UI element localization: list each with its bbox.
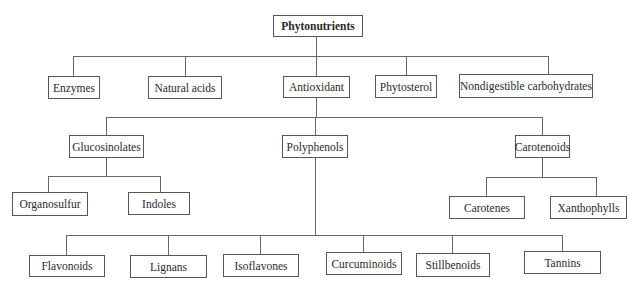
- connector: [315, 158, 316, 235]
- node-polyphenols: Polyphenols: [282, 135, 348, 158]
- connector: [73, 56, 74, 76]
- node-tannins: Tannins: [524, 251, 601, 274]
- connector: [106, 158, 107, 176]
- node-natural-acids: Natural acids: [148, 76, 222, 99]
- node-label: Xanthophylls: [558, 202, 620, 214]
- node-label: Organosulfur: [19, 198, 80, 210]
- node-curcuminoids: Curcuminoids: [326, 252, 402, 275]
- connector: [160, 176, 161, 192]
- connector: [168, 235, 169, 255]
- connector: [48, 176, 161, 177]
- node-flavonoids: Flavonoids: [29, 255, 105, 277]
- connector: [548, 56, 549, 76]
- connector: [542, 158, 543, 177]
- node-label: Phytosterol: [380, 81, 432, 93]
- node-isoflavones: Isoflavones: [223, 254, 299, 277]
- node-label: Flavonoids: [41, 260, 92, 272]
- connector: [48, 176, 49, 192]
- node-stillbenoids: Stillbenoids: [416, 253, 490, 277]
- connector: [406, 56, 407, 76]
- node-label: Curcuminoids: [331, 258, 396, 270]
- connector: [596, 177, 597, 196]
- node-enzymes: Enzymes: [48, 76, 100, 99]
- connector: [316, 98, 317, 117]
- connector: [185, 56, 186, 76]
- connector: [486, 177, 597, 178]
- node-label: Carotenes: [464, 202, 510, 214]
- connector: [106, 117, 543, 118]
- node-label: Antioxidant: [289, 81, 344, 93]
- connector: [66, 235, 67, 255]
- connector: [66, 235, 563, 236]
- node-phytosterol: Phytosterol: [375, 75, 437, 98]
- connector: [542, 117, 543, 135]
- node-label: Phytonutrients: [281, 20, 354, 32]
- node-label: Nondigestible carbohydrates: [460, 80, 592, 92]
- node-organosulfur: Organosulfur: [12, 192, 88, 216]
- node-label: Tannins: [544, 257, 580, 269]
- connector: [452, 235, 453, 254]
- connector: [315, 117, 316, 135]
- phytonutrients-tree-diagram: Phytonutrients Enzymes Natural acids Ant…: [0, 0, 640, 285]
- node-label: Carotenoids: [515, 141, 571, 153]
- node-label: Lignans: [150, 261, 187, 273]
- node-carotenoids: Carotenoids: [515, 135, 570, 158]
- node-label: Indoles: [142, 198, 176, 210]
- node-nondigestible-carbohydrates: Nondigestible carbohydrates: [459, 74, 593, 98]
- node-phytonutrients: Phytonutrients: [273, 15, 363, 37]
- node-xanthophylls: Xanthophylls: [550, 196, 627, 219]
- node-carotenes: Carotenes: [449, 196, 525, 219]
- node-label: Polyphenols: [287, 141, 344, 153]
- node-label: Stillbenoids: [426, 259, 481, 271]
- node-label: Glucosinolates: [72, 141, 140, 153]
- node-indoles: Indoles: [128, 192, 190, 215]
- node-label: Natural acids: [155, 82, 216, 94]
- node-antioxidant: Antioxidant: [283, 76, 350, 98]
- connector: [260, 235, 261, 255]
- connector: [486, 177, 487, 196]
- node-label: Enzymes: [53, 82, 95, 94]
- connector: [316, 37, 317, 56]
- node-glucosinolates: Glucosinolates: [69, 135, 144, 158]
- connector: [316, 56, 317, 76]
- connector: [106, 117, 107, 135]
- connector: [73, 56, 549, 57]
- node-label: Isoflavones: [234, 260, 287, 272]
- node-lignans: Lignans: [130, 255, 207, 278]
